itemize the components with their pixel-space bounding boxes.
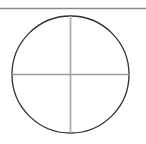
figure-background [0, 0, 146, 144]
circle-crosshair-diagram [0, 0, 146, 144]
figure-container [0, 0, 146, 144]
